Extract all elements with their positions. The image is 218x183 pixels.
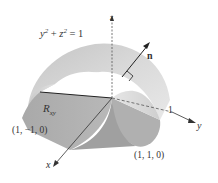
y-axis-label: y bbox=[197, 121, 201, 131]
half-cylinder-diagram: y2 + z2 = 1 Rxy (1, −1, 0) (1, 1, 0) 1 y… bbox=[0, 0, 218, 183]
point-label-left: (1, −1, 0) bbox=[12, 126, 47, 136]
point-label-right: (1, 1, 0) bbox=[134, 151, 164, 161]
z-axis-label: z bbox=[110, 14, 113, 22]
normal-vector-label: n bbox=[147, 51, 153, 61]
surface-equation-label: y2 + z2 = 1 bbox=[40, 28, 83, 40]
y-tick-label: 1 bbox=[168, 106, 173, 116]
diagram-graphics bbox=[0, 0, 218, 183]
region-label: Rxy bbox=[43, 103, 56, 117]
x-axis-label: x bbox=[46, 160, 50, 170]
